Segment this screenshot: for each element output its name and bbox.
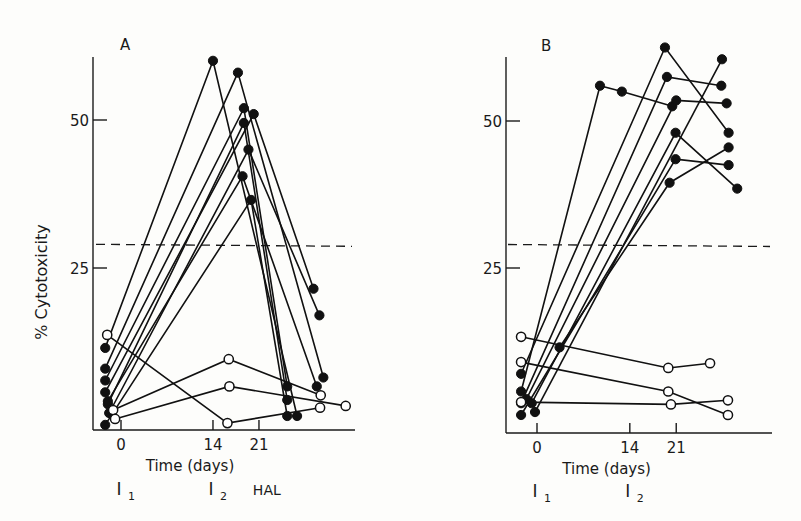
filled-circle-marker [319, 373, 328, 382]
filled-circle-marker [101, 343, 110, 352]
open-circle-marker [516, 332, 525, 341]
filled-circle-marker [724, 128, 733, 137]
filled-circle-marker [208, 56, 217, 65]
filled-circle-marker [662, 72, 671, 81]
panel-title: B [541, 37, 551, 55]
open-circle-marker [341, 401, 350, 410]
open-circle-marker [110, 414, 119, 423]
threshold-line [508, 244, 770, 246]
filled-circle-marker [660, 43, 669, 52]
y-tick-label: 50 [483, 113, 502, 131]
open-circle-marker [705, 359, 714, 368]
event-annotation: I [625, 481, 630, 501]
open-circle-marker [664, 387, 673, 396]
filled-circle-marker [101, 420, 110, 429]
filled-circle-marker [595, 81, 604, 90]
filled-circle-marker [665, 178, 674, 187]
series-line-immunized-4 [526, 100, 726, 399]
filled-circle-marker [101, 376, 110, 385]
x-axis-label: Time (days) [561, 460, 651, 478]
open-circle-marker [103, 330, 112, 339]
y-tick-label: 50 [70, 112, 89, 130]
filled-circle-marker [555, 343, 564, 352]
x-tick-label: 0 [116, 436, 126, 454]
event-annotation-subscript: 1 [544, 492, 551, 505]
open-circle-marker [723, 396, 732, 405]
filled-circle-marker [292, 411, 301, 420]
open-circle-marker [316, 391, 325, 400]
filled-circle-marker [530, 407, 539, 416]
threshold-line [96, 244, 352, 246]
filled-circle-marker [527, 399, 536, 408]
event-annotation: I [532, 481, 537, 501]
filled-circle-marker [238, 172, 247, 181]
x-tick-label: 0 [532, 439, 542, 457]
x-tick-label: 21 [249, 436, 268, 454]
filled-circle-marker [672, 96, 681, 105]
event-annotation: HAL [253, 482, 281, 498]
series-line-immunized-1 [521, 86, 672, 392]
figure: A255001421Time (days)I1I2HAL B255001421T… [0, 0, 801, 521]
filled-circle-marker [315, 311, 324, 320]
filled-circle-marker [103, 397, 112, 406]
event-annotation: I [116, 479, 121, 499]
series-line-immunized-6 [521, 159, 729, 415]
filled-circle-marker [309, 284, 318, 293]
filled-circle-marker [617, 87, 626, 96]
y-tick-label: 25 [70, 260, 89, 278]
open-circle-marker [723, 410, 732, 419]
open-circle-marker [516, 397, 525, 406]
open-circle-marker [666, 400, 675, 409]
series-line-immunized-3 [521, 77, 721, 403]
filled-circle-marker [722, 99, 731, 108]
x-tick-label: 14 [203, 436, 222, 454]
filled-circle-marker [239, 118, 248, 127]
series-line-control-2 [521, 362, 728, 415]
y-axis-label: % Cytotoxicity [32, 224, 51, 339]
cytotoxicity-figure: A255001421Time (days)I1I2HAL B255001421T… [0, 0, 801, 521]
open-circle-marker [224, 355, 233, 364]
open-circle-marker [109, 405, 118, 414]
event-annotation-subscript: 2 [637, 492, 644, 505]
filled-circle-marker [671, 128, 680, 137]
open-circle-marker [223, 419, 232, 428]
x-axis-label: Time (days) [145, 457, 235, 475]
panel-title: A [120, 36, 131, 54]
filled-circle-marker [246, 195, 255, 204]
filled-circle-marker [283, 411, 292, 420]
filled-circle-marker [239, 104, 248, 113]
filled-circle-marker [233, 68, 242, 77]
filled-circle-marker [724, 143, 733, 152]
event-annotation-subscript: 2 [220, 490, 227, 503]
panel-b: B255001421Time (days)I1I2 [483, 37, 772, 505]
series-line-control-3 [521, 400, 728, 404]
filled-circle-marker [671, 155, 680, 164]
filled-circle-marker [733, 184, 742, 193]
filled-circle-marker [516, 369, 525, 378]
x-tick-label: 14 [620, 439, 639, 457]
open-circle-marker [315, 403, 324, 412]
filled-circle-marker [283, 382, 292, 391]
panel-a: A255001421Time (days)I1I2HAL [70, 36, 355, 503]
filled-circle-marker [249, 109, 258, 118]
event-annotation: I [208, 479, 213, 499]
filled-circle-marker [312, 382, 321, 391]
event-annotation-subscript: 1 [128, 490, 135, 503]
filled-circle-marker [516, 410, 525, 419]
x-tick-label: 21 [667, 439, 686, 457]
filled-circle-marker [283, 395, 292, 404]
open-circle-marker [516, 357, 525, 366]
y-tick-label: 25 [483, 260, 502, 278]
filled-circle-marker [101, 364, 110, 373]
series-line-immunized-2 [521, 48, 729, 374]
open-circle-marker [664, 363, 673, 372]
filled-circle-marker [717, 81, 726, 90]
filled-circle-marker [101, 388, 110, 397]
filled-circle-marker [724, 161, 733, 170]
filled-circle-marker [717, 55, 726, 64]
filled-circle-marker [244, 145, 253, 154]
open-circle-marker [225, 382, 234, 391]
